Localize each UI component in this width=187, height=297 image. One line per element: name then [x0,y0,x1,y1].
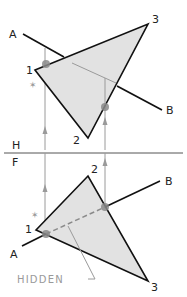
line-ab-front-visible-b [105,181,160,207]
vertex-label-1-top: 1 [26,64,33,77]
vertex-label-1-front: 1 [25,223,32,236]
plane-triangle-top [35,24,148,138]
piercing-point-2-top [101,103,109,111]
piercing-point-1-top [42,60,50,68]
arrow-icon [43,184,48,192]
line-label-b-front: B [165,175,173,188]
vertex-label-3-top: 3 [152,13,159,26]
line-ab-top-visible-a [23,34,64,57]
line-label-a-top: A [9,28,17,41]
star-marker-icon: ✶ [31,210,39,220]
vertex-label-2-top: 2 [73,134,80,147]
line-label-a-front: A [10,248,18,261]
front-view: F ✶ HIDDEN A B 1 2 3 [10,153,173,294]
piercing-point-2-front [101,203,109,211]
vertex-label-3-front: 3 [151,281,158,294]
arrow-icon [43,126,48,134]
view-label-h: H [12,139,20,152]
arrow-icon [103,117,108,125]
hidden-label: HIDDEN [17,274,64,285]
view-label-f: F [12,156,18,169]
line-ab-top-visible-b [117,86,162,110]
vertex-label-2-front: 2 [91,163,98,176]
plane-triangle-front [36,176,148,281]
line-label-b-top: B [166,104,174,117]
piercing-point-1-front [42,230,50,238]
line-plane-intersection-diagram: ✶ A B 1 2 3 H F ✶ HIDDEN A B [0,0,187,297]
top-view: ✶ A B 1 2 3 H [9,13,174,152]
arrow-icon [103,158,108,166]
star-marker-icon: ✶ [29,80,37,90]
